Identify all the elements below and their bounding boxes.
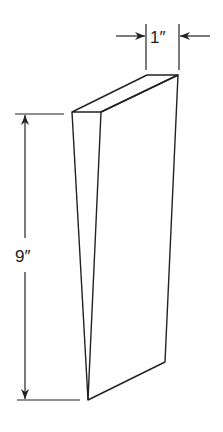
width-label: 1″ — [150, 28, 165, 47]
wedge — [72, 75, 178, 400]
height-label: 9″ — [15, 247, 30, 266]
wedge-front-left-edge — [72, 112, 88, 400]
wedge-side-face — [88, 75, 178, 400]
wedge-top-face — [72, 75, 178, 112]
wedge-diagram: 1″ 9″ — [0, 0, 223, 432]
